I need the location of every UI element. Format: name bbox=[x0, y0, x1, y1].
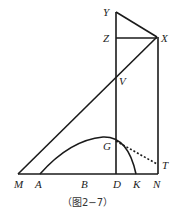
label-G: G bbox=[103, 140, 111, 152]
label-A: A bbox=[34, 178, 42, 190]
label-T: T bbox=[162, 159, 169, 171]
label-X: X bbox=[160, 32, 169, 44]
line-YX bbox=[116, 12, 157, 37]
figure-caption: （图2−7） bbox=[62, 197, 113, 208]
label-Y: Y bbox=[103, 6, 111, 18]
curve-AGK bbox=[40, 137, 136, 174]
label-Z: Z bbox=[103, 32, 110, 44]
label-B: B bbox=[81, 178, 88, 190]
label-M: M bbox=[13, 178, 24, 190]
line-MX bbox=[18, 37, 157, 174]
diagram-canvas: Y Z X V G T M A B D K N （图2−7） bbox=[0, 0, 181, 223]
label-V: V bbox=[119, 75, 127, 87]
label-D: D bbox=[112, 178, 121, 190]
label-N: N bbox=[152, 178, 161, 190]
label-K: K bbox=[132, 178, 141, 190]
geometry-figure: Y Z X V G T M A B D K N （图2−7） bbox=[0, 0, 181, 223]
